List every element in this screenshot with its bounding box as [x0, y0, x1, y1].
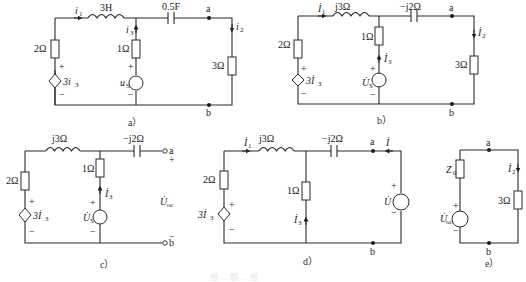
subscript: S — [369, 82, 373, 90]
node-label: a — [206, 3, 211, 14]
resistor-3ohm-icon — [514, 191, 522, 209]
subscript: 2 — [482, 32, 486, 40]
panel-caption: b） — [377, 115, 392, 126]
dependent-source-label: 3İ — [32, 210, 42, 221]
subscript: 1 — [79, 10, 83, 18]
node-b-dot — [450, 102, 454, 106]
subscript: 2 — [512, 168, 516, 176]
resistor-2ohm-icon — [51, 40, 59, 58]
voltage-source-icon — [372, 73, 386, 87]
resistor-2ohm-icon — [294, 40, 302, 58]
plus-sign: + — [29, 196, 35, 207]
inductor-label: j3Ω — [258, 133, 274, 144]
plus-sign: + — [301, 63, 307, 74]
circuit-d: j3Ω −j2Ω 2Ω 1Ω + − 3İ 3 İ 1 İ 3 İ U̇ + −… — [197, 133, 409, 267]
impedance-label: Z — [446, 164, 452, 175]
panel-caption: a） — [128, 117, 142, 128]
resistor-1ohm-icon — [132, 40, 140, 58]
minus-sign: − — [90, 226, 96, 237]
resistor-1ohm-icon — [96, 159, 104, 177]
resistor-1ohm-icon — [375, 27, 383, 45]
minus-sign: − — [391, 207, 397, 218]
resistor-label: 2Ω — [278, 39, 290, 50]
subscript: 1 — [248, 142, 252, 150]
subscript: 0 — [453, 169, 457, 177]
plus-sign: + — [370, 63, 376, 74]
wire — [224, 151, 401, 243]
capacitor-label: −j2Ω — [123, 133, 144, 144]
capacitor-icon — [168, 12, 174, 24]
resistor-label: 2Ω — [6, 175, 18, 186]
inductor-icon — [46, 148, 80, 152]
node-label: b — [370, 246, 375, 257]
circuit-e: Z 0 3Ω + − U̇ oc İ 2 a b e） — [440, 137, 522, 269]
subscript: 3 — [298, 219, 302, 227]
panel-caption: d） — [303, 256, 318, 267]
node-b-dot — [487, 241, 491, 245]
inductor-icon — [259, 148, 294, 152]
subscript: oc — [446, 218, 453, 226]
node-b-dot — [371, 241, 375, 245]
plus-sign: + — [169, 154, 175, 165]
panel-caption: c） — [100, 259, 114, 270]
subscript: 2 — [240, 26, 244, 34]
resistor-1ohm-icon — [302, 182, 310, 200]
inductor-icon — [88, 15, 124, 19]
subscript: 3 — [75, 81, 79, 89]
inductor-icon — [333, 13, 369, 17]
dependent-source-icon — [292, 74, 304, 86]
subscript: S — [126, 82, 130, 90]
plus-sign: + — [391, 180, 397, 191]
inductor-label: j3Ω — [51, 133, 67, 144]
circuit-b: j3Ω −j2Ω 2Ω 1Ω 3Ω + − + − 3İ 3 U̇ S İ 1 … — [278, 1, 486, 126]
subscript: 3 — [388, 58, 392, 66]
capacitor-label: −j2Ω — [400, 1, 421, 12]
resistor-label: 3Ω — [212, 60, 224, 71]
node-a-dot — [450, 14, 454, 18]
inductor-label: 3H — [100, 2, 112, 13]
minus-sign: − — [370, 89, 376, 100]
resistor-label: 1Ω — [361, 31, 373, 42]
resistor-2ohm-icon — [220, 171, 228, 189]
node-label: b — [486, 246, 491, 257]
panel-caption: e） — [485, 258, 499, 269]
inductor-label: j3Ω — [334, 1, 350, 12]
impedance-z0-icon — [456, 160, 464, 178]
resistor-label: 3Ω — [498, 195, 510, 206]
subscript: S — [90, 217, 94, 225]
resistor-label: 2Ω — [203, 174, 215, 185]
circuit-c: j3Ω −j2Ω 2Ω 1Ω + − + − 3İ 3 U̇ S İ 3 U̇ … — [6, 133, 175, 270]
minus-sign: − — [59, 89, 65, 100]
node-label: a — [370, 136, 375, 147]
node-label: b — [206, 107, 211, 118]
resistor-label: 1Ω — [287, 185, 299, 196]
minus-sign: − — [301, 88, 307, 99]
node-label: a — [449, 2, 454, 13]
minus-sign: − — [169, 231, 175, 242]
circuit-a: 3H 0.5F 2Ω 1Ω 3Ω + − + − 3i 3 u S i 1 i … — [34, 1, 244, 128]
subscript: 3 — [210, 214, 214, 222]
plus-sign: + — [453, 200, 459, 211]
plus-sign: + — [59, 61, 65, 72]
terminal-a-icon — [163, 149, 167, 153]
plus-sign: + — [90, 197, 96, 208]
capacitor-label: 0.5F — [162, 1, 181, 12]
resistor-label: 1Ω — [82, 163, 94, 174]
capacitor-icon — [134, 145, 140, 157]
current-label: i — [236, 21, 239, 32]
test-voltage-label: U̇ — [384, 196, 392, 207]
node-label: a — [486, 137, 491, 148]
minus-sign: − — [29, 226, 35, 237]
subscript: 3 — [318, 80, 322, 88]
minus-sign: − — [229, 224, 235, 235]
resistor-3ohm-icon — [470, 56, 478, 74]
node-a-dot — [371, 149, 375, 153]
wire — [55, 18, 232, 105]
node-a-dot — [207, 16, 211, 20]
minus-sign: − — [453, 225, 459, 236]
resistor-3ohm-icon — [228, 57, 236, 75]
node-a-dot — [487, 148, 491, 152]
plus-sign: + — [128, 61, 134, 72]
minus-sign: − — [128, 89, 134, 100]
dependent-source-label: 3İ — [197, 209, 207, 220]
